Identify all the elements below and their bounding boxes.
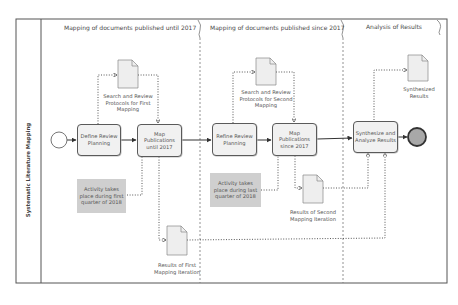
pool-label-text: Systematic Literature Mapping xyxy=(25,123,31,217)
pool-label: Systematic Literature Mapping xyxy=(14,80,42,260)
phase-header-3: Analysis of Results xyxy=(366,23,422,30)
task-label: Synthesize and Analyze Results xyxy=(355,130,396,143)
start-event xyxy=(51,132,67,148)
doc5-label: Results of First Mapping Iteration xyxy=(154,262,200,275)
task-map-publications-until-2017[interactable]: Map Publications until 2017 xyxy=(137,124,182,157)
doc1-icon xyxy=(118,60,138,88)
task-synthesize-and-analyze-results[interactable]: Synthesize and Analyze Results xyxy=(353,121,398,153)
annotation-text: Activity takes place during last quarter… xyxy=(212,180,259,200)
phase-header-1: Mapping of documents published until 201… xyxy=(64,24,196,31)
annotation-last-quarter: Activity takes place during last quarter… xyxy=(210,173,261,207)
task-label: Map Publications until 2017 xyxy=(139,131,180,151)
doc3-label: Synthesized Results xyxy=(400,86,438,99)
annotation-first-quarter: Activity takes place during first quarte… xyxy=(77,179,126,213)
doc2-icon xyxy=(256,58,276,85)
doc4-label: Results of Second Mapping Iteration xyxy=(283,209,343,222)
doc5-icon xyxy=(167,226,187,255)
doc2-label: Search and Review Protocols for Second M… xyxy=(236,89,296,109)
task-define-review-planning[interactable]: Define Review Planning xyxy=(77,124,121,156)
phase-header-2: Mapping of documents published since 201… xyxy=(210,24,345,31)
doc3-icon xyxy=(408,55,428,81)
task-label: Map Publications since 2017 xyxy=(274,130,315,150)
annotation-text: Activity takes place during first quarte… xyxy=(79,186,124,206)
task-refine-review-planning[interactable]: Refine Review Planning xyxy=(212,123,257,156)
doc4-icon xyxy=(303,175,323,203)
task-map-publications-since-2017[interactable]: Map Publications since 2017 xyxy=(272,123,317,156)
task-label: Define Review Planning xyxy=(79,133,119,146)
bpmn-diagram: Systematic Literature Mapping Mapping of… xyxy=(0,0,458,305)
doc1-label: Search and Review Protocols for First Ma… xyxy=(98,93,158,113)
task-label: Refine Review Planning xyxy=(214,133,255,146)
end-event xyxy=(408,128,426,146)
